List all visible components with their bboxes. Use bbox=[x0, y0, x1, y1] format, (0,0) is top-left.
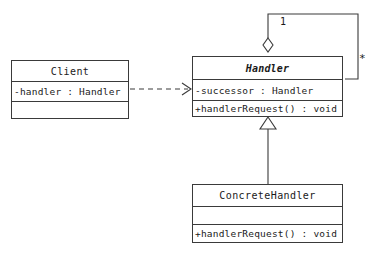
class-attribute-client-handler: -handler : Handler bbox=[12, 81, 128, 101]
uml-class-client[interactable]: Client -handler : Handler bbox=[11, 60, 129, 119]
dependency-edge-client-to-handler bbox=[130, 83, 191, 95]
uml-class-handler[interactable]: Handler -successor : Handler +handlerReq… bbox=[192, 56, 343, 117]
generalization-edge-concrete-to-handler bbox=[260, 117, 276, 184]
class-operations-client-empty bbox=[12, 101, 128, 118]
multiplicity-label-one: 1 bbox=[280, 16, 286, 27]
class-name-client: Client bbox=[12, 61, 128, 81]
multiplicity-label-many: * bbox=[359, 52, 366, 65]
class-name-concrete-handler: ConcreteHandler bbox=[193, 185, 342, 206]
hollow-triangle-icon bbox=[260, 117, 276, 129]
class-name-handler: Handler bbox=[193, 57, 342, 79]
class-attributes-concrete-handler-empty bbox=[193, 206, 342, 224]
uml-class-concrete-handler[interactable]: ConcreteHandler +handlerRequest() : void bbox=[192, 184, 343, 243]
class-operation-handler-handlerrequest: +handlerRequest() : void bbox=[193, 100, 342, 116]
class-operation-concrete-handler-handlerrequest: +handlerRequest() : void bbox=[193, 224, 342, 242]
uml-class-diagram: Handler (dashed, open arrowhead) --> Cli… bbox=[0, 0, 380, 261]
open-arrowhead-icon bbox=[182, 83, 191, 95]
hollow-diamond-icon bbox=[263, 38, 273, 52]
class-attribute-handler-successor: -successor : Handler bbox=[193, 79, 342, 100]
